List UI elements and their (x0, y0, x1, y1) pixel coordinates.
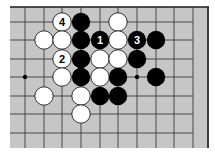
white-stone (53, 31, 71, 49)
black-stone (128, 50, 146, 68)
black-stone (109, 68, 127, 86)
white-stone (109, 13, 127, 31)
white-stone (72, 87, 90, 105)
white-stone (35, 87, 53, 105)
black-stone (109, 87, 127, 105)
white-stone (53, 68, 71, 86)
black-stone (72, 50, 90, 68)
white-stone: 2 (53, 50, 71, 68)
move-number-label: 3 (134, 34, 140, 46)
white-stone: 4 (53, 13, 71, 31)
move-number-label: 4 (59, 16, 66, 28)
white-stone (91, 50, 109, 68)
white-stone (109, 31, 127, 49)
black-stone (72, 68, 90, 86)
go-board: 4132 (0, 0, 215, 158)
black-stone (72, 13, 90, 31)
star-point (135, 75, 139, 79)
black-stone (147, 31, 165, 49)
move-number-label: 1 (97, 34, 103, 46)
white-stone (72, 105, 90, 123)
black-stone (91, 87, 109, 105)
black-stone (147, 68, 165, 86)
white-stone (35, 31, 53, 49)
move-number-label: 2 (59, 53, 65, 65)
black-stone (72, 31, 90, 49)
black-stone: 3 (128, 31, 146, 49)
black-stone: 1 (91, 31, 109, 49)
white-stone (109, 50, 127, 68)
star-point (23, 75, 27, 79)
white-stone (91, 68, 109, 86)
